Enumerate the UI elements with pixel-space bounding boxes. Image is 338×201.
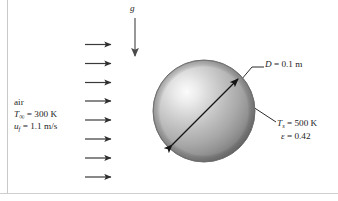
diameter-leader-line xyxy=(241,67,264,80)
surface-temperature-subscript: s xyxy=(282,122,285,129)
freestream-temperature-equals: = xyxy=(27,109,32,119)
fluid-velocity-subscript: f xyxy=(19,125,21,132)
heat-transfer-sphere-figure: g air T∞ = 300 K uf = 1.1 m/s D = 0.1 m … xyxy=(0,0,338,201)
freestream-temperature-value: 300 K xyxy=(34,109,57,119)
sphere xyxy=(153,60,255,162)
surface-temperature-value: 500 K xyxy=(294,118,317,128)
flow-arrows xyxy=(85,45,111,178)
diameter-symbol: D xyxy=(265,59,272,69)
diameter-value: 0.1 m xyxy=(281,59,302,69)
surface-temperature-label: Ts = 500 K xyxy=(277,117,317,130)
fluid-velocity-equals: = xyxy=(23,121,28,131)
diameter-equals: = xyxy=(274,59,279,69)
figure-canvas xyxy=(0,0,338,201)
emissivity-symbol: ε xyxy=(281,131,285,141)
diameter-label: D = 0.1 m xyxy=(265,58,302,70)
emissivity-value: 0.42 xyxy=(294,131,310,141)
fluid-velocity-value: 1.1 m/s xyxy=(30,121,57,131)
fluid-label: air xyxy=(14,96,24,108)
gravity-label: g xyxy=(130,2,135,14)
fluid-velocity-symbol: u xyxy=(14,121,19,131)
fluid-velocity-label: uf = 1.1 m/s xyxy=(14,120,57,133)
emissivity-equals: = xyxy=(287,131,292,141)
emissivity-label: ε = 0.42 xyxy=(281,130,310,142)
surface-temperature-equals: = xyxy=(287,118,292,128)
